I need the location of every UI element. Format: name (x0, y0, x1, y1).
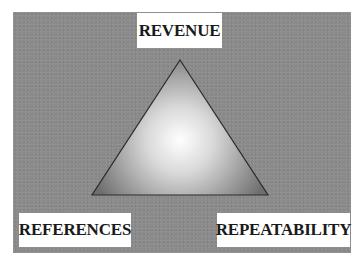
revenue-label: REVENUE (137, 13, 222, 48)
revenue-label-text: REVENUE (139, 21, 221, 41)
repeatability-label: REPEATABILITY (217, 213, 350, 247)
repeatability-label-text: REPEATABILITY (216, 220, 352, 240)
references-label: REFERENCES (19, 213, 131, 247)
references-label-text: REFERENCES (19, 220, 131, 240)
triangle-shape (92, 60, 268, 195)
